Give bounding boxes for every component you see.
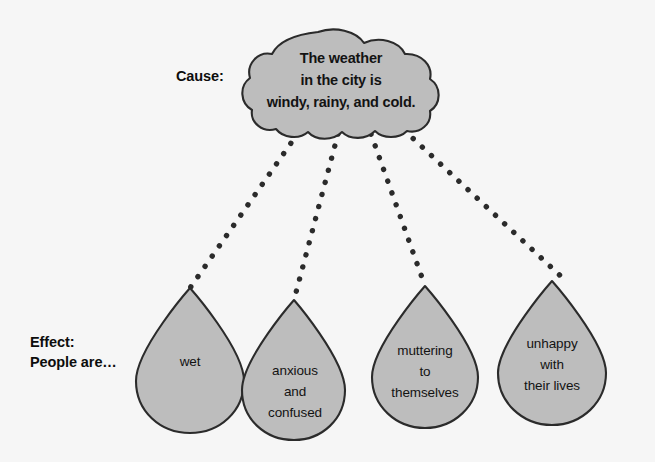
rain-line-2: [294, 134, 338, 300]
effect-droplet-2: [242, 300, 345, 440]
diagram-canvas: Cause: Effect: People are… The weather i…: [0, 0, 655, 462]
rain-line-1: [190, 133, 298, 288]
effect-droplet-4: [498, 281, 606, 425]
rain-line-4: [404, 130, 566, 281]
cause-cloud-shape: [242, 29, 438, 138]
effect-droplet-3: [372, 286, 478, 428]
effect-droplet-1: [136, 288, 244, 433]
cause-effect-diagram: [0, 0, 655, 462]
rain-connectors: [190, 130, 566, 300]
effect-label: Effect: People are…: [30, 333, 117, 372]
effect-droplets: [136, 281, 606, 440]
cause-label: Cause:: [176, 67, 224, 87]
rain-line-3: [371, 134, 425, 286]
